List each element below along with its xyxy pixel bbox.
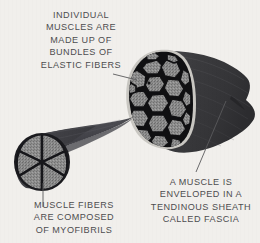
small-face-center-node xyxy=(39,159,44,164)
caption-line: MADE UP OF xyxy=(26,34,136,46)
caption-line: A MUSCLE IS xyxy=(147,176,255,188)
caption-line: ELASTIC FIBERS xyxy=(26,59,136,71)
caption-line: CALLED FASCIA xyxy=(147,213,255,225)
muscle-cross-section xyxy=(126,50,255,153)
caption-line: TENDINOUS SHEATH xyxy=(147,201,255,213)
fascia-caption: A MUSCLE IS ENVELOPED IN A TENDINOUS SHE… xyxy=(147,176,255,226)
muscle-tendon-taper xyxy=(15,117,133,190)
muscle-diagram-figure: INDIVIDUAL MUSCLES ARE MADE UP OF BUNDLE… xyxy=(0,0,260,243)
caption-line: MUSCLE FIBERS xyxy=(22,199,126,211)
fascicle-marker-dot xyxy=(147,81,150,84)
caption-line: ENVELOPED IN A xyxy=(147,188,255,200)
myofibrils-caption: MUSCLE FIBERS ARE COMPOSED OF MYOFIBRILS xyxy=(22,199,126,236)
caption-line: ARE COMPOSED xyxy=(22,211,126,223)
elastic-fibers-caption: INDIVIDUAL MUSCLES ARE MADE UP OF BUNDLE… xyxy=(26,9,136,71)
caption-line: BUNDLES OF xyxy=(26,46,136,58)
caption-line: OF MYOFIBRILS xyxy=(22,224,126,236)
caption-line: INDIVIDUAL xyxy=(26,9,136,21)
caption-line: MUSCLES ARE xyxy=(26,21,136,33)
